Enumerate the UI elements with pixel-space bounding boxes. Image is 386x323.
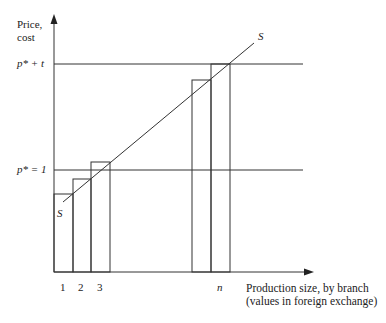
y-axis-arrow-icon — [51, 14, 58, 24]
supply-curve — [63, 43, 254, 202]
y-axis-label-line2: cost — [17, 31, 42, 44]
branch-bar-n — [211, 64, 230, 272]
y-axis-label: Price, cost — [17, 18, 42, 44]
world-price-label: p* = 1 — [17, 163, 46, 176]
branch-bar-n-minus-1 — [192, 80, 211, 272]
branch-bar-3 — [91, 162, 110, 272]
y-axis-label-line1: Price, — [17, 18, 42, 31]
supply-cost-diagram — [0, 0, 386, 323]
supply-curve-label-bottom: S — [57, 207, 63, 220]
branch-label-3: 3 — [97, 281, 103, 294]
price-plus-tariff-label: p* + t — [17, 57, 44, 70]
branch-bar-2 — [73, 179, 91, 272]
branch-label-2: 2 — [78, 281, 84, 294]
x-axis-label: Production size, by branch (values in fo… — [246, 282, 377, 308]
supply-curve-label-top: S — [258, 30, 264, 43]
x-axis-arrow-icon — [304, 269, 314, 276]
branch-label-n: n — [217, 281, 223, 294]
branch-bar-1 — [54, 194, 73, 272]
branch-label-1: 1 — [60, 281, 66, 294]
x-axis-label-line1: Production size, by branch — [246, 282, 377, 295]
x-axis-label-line2: (values in foreign exchange) — [246, 295, 377, 308]
